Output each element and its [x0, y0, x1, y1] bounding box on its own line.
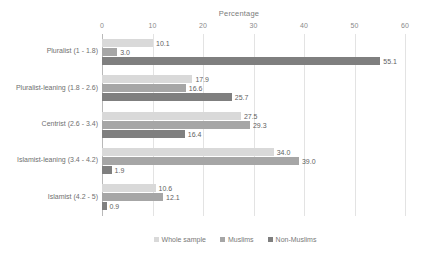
- legend-label: Muslims: [228, 236, 254, 243]
- bar-non-muslims[interactable]: [102, 202, 107, 210]
- bar-slot: 16.4: [102, 130, 405, 138]
- category-label-2: Centrist (2.6 - 3.4): [42, 120, 98, 127]
- bar-whole-sample[interactable]: [102, 112, 241, 120]
- legend-swatch-icon: [220, 237, 225, 242]
- x-tick-label-60: 60: [401, 22, 409, 29]
- bar-value-label: 17.9: [195, 76, 209, 83]
- bar-value-label: 10.6: [159, 185, 173, 192]
- bar-group: 17.916.625.7: [102, 75, 405, 102]
- bar-value-label: 0.9: [110, 203, 120, 210]
- legend-label: Whole sample: [162, 236, 206, 243]
- x-tick-label-20: 20: [199, 22, 207, 29]
- x-tick-label-30: 30: [250, 22, 258, 29]
- category-label-3: Islamist-leaning (3.4 - 4.2): [17, 156, 98, 163]
- bar-slot: 39.0: [102, 157, 405, 165]
- bar-non-muslims[interactable]: [102, 166, 112, 174]
- bar-non-muslims[interactable]: [102, 130, 185, 138]
- bar-value-label: 16.4: [188, 130, 202, 137]
- legend-item-whole-sample[interactable]: Whole sample: [154, 236, 206, 243]
- plot-area: 10.13.055.117.916.625.727.529.316.434.03…: [102, 34, 405, 216]
- bar-group: 34.039.01.9: [102, 148, 405, 175]
- bar-non-muslims[interactable]: [102, 93, 232, 101]
- legend-label: Non-Muslims: [276, 236, 317, 243]
- gridline-60: [405, 34, 406, 216]
- bar-slot: 10.1: [102, 39, 405, 47]
- bar-slot: 55.1: [102, 57, 405, 65]
- bar-group: 10.13.055.1: [102, 39, 405, 66]
- bar-slot: 1.9: [102, 166, 405, 174]
- bar-value-label: 12.1: [166, 194, 180, 201]
- bar-slot: 27.5: [102, 112, 405, 120]
- bar-value-label: 55.1: [383, 57, 397, 64]
- bar-group: 10.612.10.9: [102, 184, 405, 211]
- bar-value-label: 34.0: [277, 148, 291, 155]
- bar-value-label: 39.0: [302, 157, 316, 164]
- bar-slot: 3.0: [102, 48, 405, 56]
- chart-legend: Whole sampleMuslimsNon-Muslims: [0, 236, 430, 243]
- bar-slot: 12.1: [102, 193, 405, 201]
- bar-slot: 17.9: [102, 75, 405, 83]
- bar-value-label: 10.1: [156, 39, 170, 46]
- category-label-0: Pluralist (1 - 1.8): [47, 47, 98, 54]
- legend-swatch-icon: [154, 237, 159, 242]
- category-label-1: Pluralist-leaning (1.8 - 2.6): [16, 84, 98, 91]
- legend-swatch-icon: [268, 237, 273, 242]
- bar-value-label: 16.6: [189, 85, 203, 92]
- x-tick-label-50: 50: [351, 22, 359, 29]
- bar-slot: 34.0: [102, 148, 405, 156]
- bar-value-label: 27.5: [244, 112, 258, 119]
- bar-whole-sample[interactable]: [102, 184, 156, 192]
- bar-group: 27.529.316.4: [102, 112, 405, 139]
- bar-value-label: 3.0: [120, 48, 130, 55]
- x-tick-label-0: 0: [100, 22, 104, 29]
- x-tick-label-10: 10: [149, 22, 157, 29]
- x-tick-label-40: 40: [300, 22, 308, 29]
- bar-whole-sample[interactable]: [102, 39, 153, 47]
- bar-slot: 10.6: [102, 184, 405, 192]
- bar-muslims[interactable]: [102, 121, 250, 129]
- bar-slot: 0.9: [102, 202, 405, 210]
- bar-slot: 29.3: [102, 121, 405, 129]
- bar-value-label: 25.7: [235, 94, 249, 101]
- bar-whole-sample[interactable]: [102, 148, 274, 156]
- category-axis-labels: Pluralist (1 - 1.8)Pluralist-leaning (1.…: [0, 34, 98, 216]
- bar-slot: 25.7: [102, 93, 405, 101]
- bar-muslims[interactable]: [102, 48, 117, 56]
- bar-slot: 16.6: [102, 84, 405, 92]
- bar-value-label: 29.3: [253, 121, 267, 128]
- legend-item-muslims[interactable]: Muslims: [220, 236, 254, 243]
- bar-non-muslims[interactable]: [102, 57, 380, 65]
- legend-item-non-muslims[interactable]: Non-Muslims: [268, 236, 317, 243]
- bar-muslims[interactable]: [102, 157, 299, 165]
- x-axis-tick-labels: 0102030405060: [102, 22, 405, 33]
- chart-title: Percentage: [0, 9, 430, 18]
- bar-chart: Percentage 0102030405060 Pluralist (1 - …: [0, 0, 430, 253]
- bar-whole-sample[interactable]: [102, 75, 192, 83]
- bar-muslims[interactable]: [102, 84, 186, 92]
- category-label-4: Islamist (4.2 - 5): [48, 193, 98, 200]
- bar-value-label: 1.9: [115, 166, 125, 173]
- bar-muslims[interactable]: [102, 193, 163, 201]
